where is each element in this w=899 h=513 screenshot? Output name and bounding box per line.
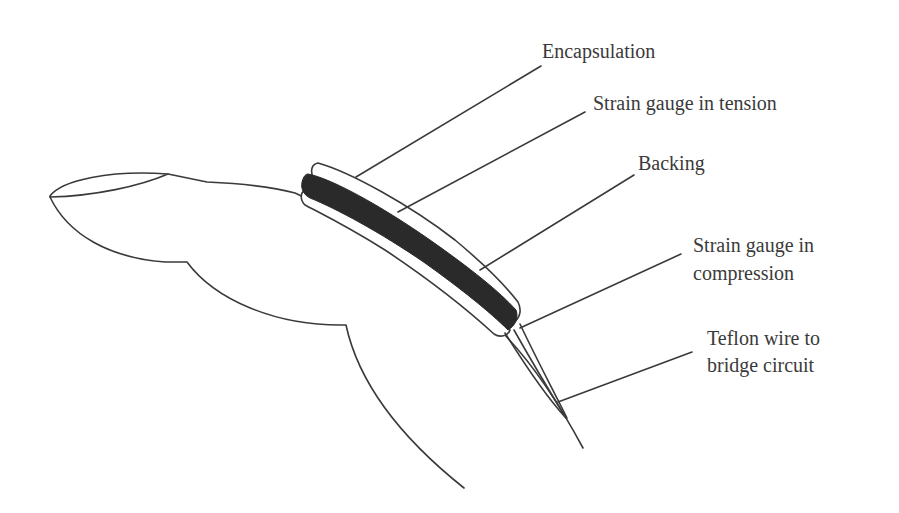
strain-gauge: [302, 174, 517, 330]
label-teflon-wire-line2: bridge circuit: [707, 354, 815, 377]
labels: Encapsulation Strain gauge in tension Ba…: [542, 40, 820, 377]
label-strain-gauge-compression-line2: compression: [693, 262, 794, 285]
sensor-assembly: [301, 163, 567, 418]
wire-leader: [558, 352, 692, 402]
tension-leader: [398, 112, 585, 212]
label-strain-gauge-compression-line1: Strain gauge in: [693, 234, 814, 257]
strain-gauge-finger-diagram: Encapsulation Strain gauge in tension Ba…: [0, 0, 899, 513]
fingernail: [50, 173, 168, 197]
encapsulation-leader: [356, 66, 541, 177]
finger-top-edge: [168, 174, 310, 200]
label-teflon-wire-line1: Teflon wire to: [707, 327, 820, 349]
label-strain-gauge-tension: Strain gauge in tension: [593, 92, 777, 115]
label-backing: Backing: [638, 152, 705, 175]
compression-leader: [520, 254, 681, 328]
teflon-wire-3: [520, 324, 567, 418]
backing-leader: [480, 175, 634, 270]
teflon-wire-2: [514, 330, 566, 418]
label-encapsulation: Encapsulation: [542, 40, 655, 63]
